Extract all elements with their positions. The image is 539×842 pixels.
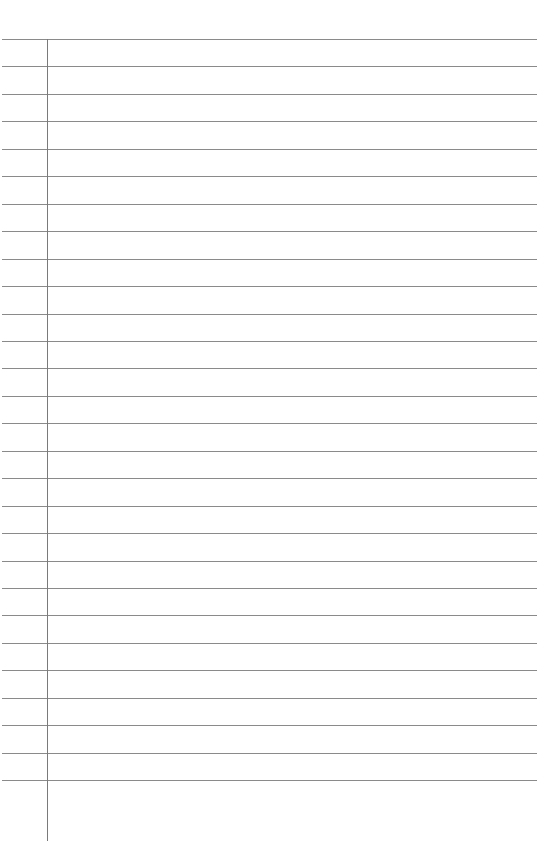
ruled-line xyxy=(2,423,537,424)
ruled-line xyxy=(2,286,537,287)
ruled-line xyxy=(2,396,537,397)
ruled-line xyxy=(2,176,537,177)
ruled-line xyxy=(2,506,537,507)
ruled-line xyxy=(2,643,537,644)
ruled-line xyxy=(2,753,537,754)
ruled-line xyxy=(2,259,537,260)
ruled-line xyxy=(2,615,537,616)
ruled-line xyxy=(2,533,537,534)
ruled-line xyxy=(2,368,537,369)
ruled-line xyxy=(2,204,537,205)
ruled-line xyxy=(2,780,537,781)
ruled-line xyxy=(2,725,537,726)
ruled-line xyxy=(2,670,537,671)
ruled-line xyxy=(2,341,537,342)
ruled-line xyxy=(2,588,537,589)
ruled-line xyxy=(2,121,537,122)
notebook-page xyxy=(0,0,539,842)
ruled-line xyxy=(2,149,537,150)
ruled-line xyxy=(2,451,537,452)
ruled-line xyxy=(2,94,537,95)
ruled-line xyxy=(2,561,537,562)
ruled-line xyxy=(2,698,537,699)
ruled-line xyxy=(2,478,537,479)
margin-line xyxy=(47,39,48,841)
ruled-line xyxy=(2,66,537,67)
ruled-line xyxy=(2,39,537,40)
ruled-line xyxy=(2,231,537,232)
ruled-line xyxy=(2,314,537,315)
